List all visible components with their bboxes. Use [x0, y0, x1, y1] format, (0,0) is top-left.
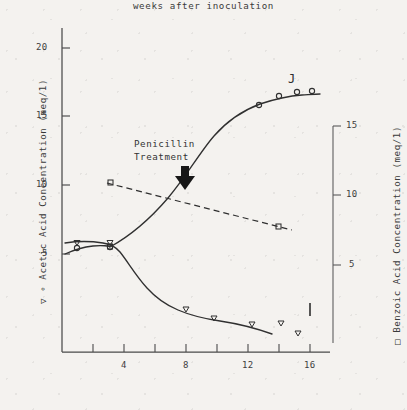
- chart-plot-area: [0, 0, 407, 410]
- series-j-point: [276, 93, 281, 98]
- series-i-point: [249, 322, 255, 327]
- right-tick-label-10: 10: [346, 189, 357, 199]
- penicillin-line-2: Treatment: [134, 151, 195, 164]
- series-j-label: J: [288, 72, 296, 86]
- left-axis-title: ▽ ∘ Acetic Acid Concentration (meq/1): [37, 62, 48, 322]
- x-tick-label-16: 16: [304, 360, 315, 370]
- series-j-point: [294, 89, 299, 94]
- figure-canvas: ▽ ∘ Acetic Acid Concentration (meq/1) □ …: [0, 0, 407, 410]
- series-i-point: [295, 331, 301, 336]
- series-i-curve: [65, 242, 272, 335]
- series-j-curve: [65, 94, 320, 254]
- right-axis-title: □ Benzoic Acid Concentration (meq/1): [391, 106, 402, 366]
- right-tick-label-5: 5: [349, 259, 355, 269]
- series-j-point: [309, 88, 314, 93]
- left-tick-label-10: 10: [36, 179, 47, 189]
- penicillin-line-1: Penicillin: [134, 138, 195, 151]
- series-benzoic-dashed-line: [107, 183, 292, 230]
- left-tick-label-5: 5: [42, 248, 48, 258]
- x-tick-label-12: 12: [242, 360, 253, 370]
- right-tick-label-15: 15: [346, 120, 357, 130]
- series-i-point: [183, 307, 189, 312]
- series-i-point: [278, 321, 284, 326]
- x-tick-label-4: 4: [121, 360, 127, 370]
- penicillin-treatment-annotation: Penicillin Treatment: [134, 138, 195, 163]
- left-tick-label-20: 20: [36, 42, 47, 52]
- left-tick-label-15: 15: [36, 110, 47, 120]
- x-tick-label-8: 8: [183, 360, 189, 370]
